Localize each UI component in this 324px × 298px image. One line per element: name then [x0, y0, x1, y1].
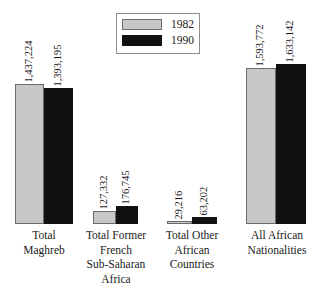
- bar-value-label: 1,393,195: [52, 44, 63, 86]
- bar-chart: 1982 1990 1,437,224 1,393,195 127,332: [0, 0, 324, 298]
- category-label-total-other-african-countries: Total Other African Countries: [157, 228, 227, 272]
- category-axis-labels: Total Maghreb Total Former French Sub-Sa…: [0, 228, 324, 298]
- category-line: Sub-Saharan: [79, 257, 153, 272]
- bar-total-maghreb-1990: 1,393,195: [44, 88, 73, 224]
- category-line: French: [79, 243, 153, 258]
- category-label-total-former-french-sub-saharan-africa: Total Former French Sub-Saharan Africa: [79, 228, 153, 286]
- category-line: Total: [8, 228, 80, 243]
- category-line: Nationalities: [236, 243, 318, 258]
- bar-rect: [93, 211, 116, 224]
- bar-rect: [192, 217, 217, 224]
- bar-other-african-1990: 63,202: [192, 217, 217, 224]
- bar-rect: [44, 88, 73, 224]
- bar-group-total-maghreb: 1,437,224 1,393,195: [15, 0, 73, 224]
- category-line: Total Other: [157, 228, 227, 243]
- bar-value-label: 127,332: [98, 175, 109, 209]
- bar-former-french-1982: 127,332: [93, 211, 116, 224]
- category-label-all-african-nationalities: All African Nationalities: [236, 228, 318, 257]
- category-line: All African: [236, 228, 318, 243]
- category-line: African: [157, 243, 227, 258]
- bar-group-all-african-nationalities: 1,593,772 1,633,142: [246, 0, 306, 224]
- bar-rect: [116, 206, 138, 224]
- bar-all-african-1982: 1,593,772: [246, 68, 276, 224]
- category-line: Total Former: [79, 228, 153, 243]
- bar-value-label: 176,745: [121, 170, 132, 204]
- bar-all-african-1990: 1,633,142: [276, 64, 306, 224]
- bar-total-maghreb-1982: 1,437,224: [15, 84, 44, 224]
- bar-value-label: 1,633,142: [285, 20, 296, 62]
- category-line: Africa: [79, 272, 153, 287]
- plot-area: 1,437,224 1,393,195 127,332 176,745 29,2…: [0, 0, 324, 224]
- bar-group-total-former-french-sub-saharan-africa: 127,332 176,745: [93, 0, 138, 224]
- bar-former-french-1990: 176,745: [116, 206, 138, 224]
- bar-value-label: 29,216: [173, 190, 184, 219]
- bar-rect: [15, 84, 44, 224]
- category-line: Maghreb: [8, 243, 80, 258]
- bar-rect: [167, 221, 192, 224]
- bar-other-african-1982: 29,216: [167, 221, 192, 224]
- bar-rect: [276, 64, 306, 224]
- category-label-total-maghreb: Total Maghreb: [8, 228, 80, 257]
- bar-value-label: 1,437,224: [23, 40, 34, 82]
- bar-rect: [246, 68, 276, 224]
- category-line: Countries: [157, 257, 227, 272]
- bar-value-label: 63,202: [198, 186, 209, 215]
- bar-group-total-other-african-countries: 29,216 63,202: [167, 0, 217, 224]
- bar-value-label: 1,593,772: [255, 24, 266, 66]
